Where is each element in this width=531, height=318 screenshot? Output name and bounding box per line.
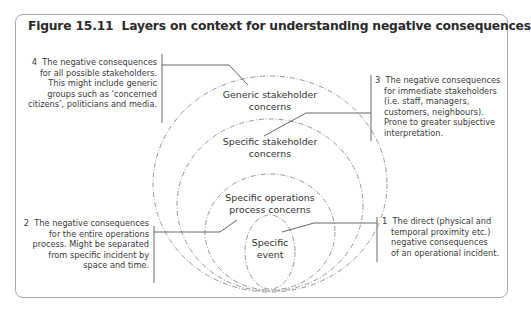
note-line: process. Might be separated: [10, 239, 149, 250]
note-line: of an operational incident.: [382, 248, 507, 259]
note-line: (i.e. staff, managers,: [375, 96, 505, 107]
note-text: The negative consequences: [386, 75, 501, 85]
label-line: Specific stakeholder: [210, 136, 330, 148]
note-line: Prone to greater subjective: [375, 117, 505, 128]
note-text: The negative consequences: [34, 218, 149, 228]
label-line: Specific operations: [210, 192, 330, 204]
note-line: citizens’, politicians and media.: [10, 99, 157, 110]
note-text: The direct (physical and: [393, 216, 492, 226]
label-line: concerns: [210, 148, 330, 160]
note-line: for all possible stakeholders.: [10, 68, 157, 79]
label-specific-stakeholder: Specific stakeholder concerns: [210, 136, 330, 160]
note-line: for immediate stakeholders: [375, 86, 505, 97]
note-line: 1 The direct (physical and: [382, 216, 507, 227]
note-number: 4: [32, 57, 37, 67]
note-line: groups such as ‘concerned: [10, 89, 157, 100]
leader-line-4-arm: [162, 65, 248, 85]
label-line: Generic stakeholder: [210, 89, 330, 101]
label-line: concerns: [210, 101, 330, 113]
leader-line-2-arm: [154, 220, 237, 232]
note-line: space and time.: [10, 260, 149, 271]
note-number: 3: [375, 75, 380, 85]
label-operations-process: Specific operations process concerns: [210, 192, 330, 216]
label-specific-event: Specific event: [240, 237, 300, 261]
note-3: 3 The negative consequences for immediat…: [375, 75, 505, 139]
leader-line-3-arm: [264, 113, 371, 136]
note-line: 3 The negative consequences: [375, 75, 505, 86]
note-line: from specific incident by: [10, 250, 149, 261]
leader-line-1-arm: [282, 223, 377, 232]
label-line: process concerns: [210, 204, 330, 216]
note-line: 4 The negative consequences: [10, 57, 157, 68]
note-line: This might include generic: [10, 78, 157, 89]
note-1: 1 The direct (physical and temporal prox…: [382, 216, 507, 258]
note-number: 2: [24, 218, 29, 228]
note-line: temporal proximity etc.): [382, 227, 507, 238]
label-line: event: [240, 249, 300, 261]
note-text: The negative consequences: [42, 57, 157, 67]
label-line: Specific: [240, 237, 300, 249]
label-generic-stakeholder: Generic stakeholder concerns: [210, 89, 330, 113]
note-line: for the entire operations: [10, 229, 149, 240]
note-2: 2 The negative consequences for the enti…: [10, 218, 149, 271]
note-line: negative consequences: [382, 237, 507, 248]
note-line: 2 The negative consequences: [10, 218, 149, 229]
note-line: interpretation.: [375, 128, 505, 139]
note-4: 4 The negative consequences for all poss…: [10, 57, 157, 110]
note-line: customers, neighbours).: [375, 107, 505, 118]
note-number: 1: [382, 216, 387, 226]
